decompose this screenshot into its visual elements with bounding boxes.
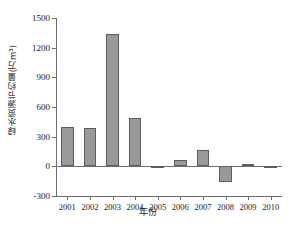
bar bbox=[151, 166, 164, 168]
x-tick bbox=[135, 196, 136, 200]
y-axis-title-text: 绿水资源节约量(万m³) bbox=[9, 45, 18, 135]
x-tick bbox=[67, 196, 68, 200]
x-tick bbox=[203, 196, 204, 200]
x-tick bbox=[113, 196, 114, 200]
bar bbox=[264, 166, 277, 168]
y-tick bbox=[52, 48, 56, 49]
x-tick bbox=[180, 196, 181, 200]
y-tick-label: 600 bbox=[37, 102, 51, 112]
x-tick bbox=[90, 196, 91, 200]
x-tick bbox=[226, 196, 227, 200]
bar bbox=[197, 150, 210, 167]
bar-chart: 绿水资源节约量(万m³) -300030060090012001500 2001… bbox=[0, 0, 295, 228]
y-tick-label: 0 bbox=[46, 161, 51, 171]
y-tick bbox=[52, 196, 56, 197]
x-tick bbox=[248, 196, 249, 200]
bar bbox=[219, 166, 232, 181]
y-tick-label: 1500 bbox=[32, 13, 50, 23]
y-tick-label: 900 bbox=[37, 72, 51, 82]
y-tick bbox=[52, 107, 56, 108]
y-tick-label: 300 bbox=[37, 132, 51, 142]
y-tick bbox=[52, 137, 56, 138]
y-axis-title: 绿水资源节约量(万m³) bbox=[4, 0, 22, 180]
x-axis-title: 年份 bbox=[0, 205, 295, 218]
y-tick-label: -300 bbox=[34, 191, 51, 201]
bar bbox=[106, 34, 119, 167]
y-tick-label: 1200 bbox=[32, 43, 50, 53]
y-tick bbox=[52, 18, 56, 19]
zero-baseline bbox=[56, 166, 282, 167]
bar bbox=[242, 164, 255, 166]
bar bbox=[129, 118, 142, 166]
x-tick bbox=[271, 196, 272, 200]
plot-area: -300030060090012001500 20012002200320042… bbox=[56, 18, 282, 196]
x-tick bbox=[158, 196, 159, 200]
y-axis-line bbox=[56, 18, 57, 196]
bar bbox=[61, 127, 74, 167]
bar bbox=[174, 160, 187, 166]
y-tick bbox=[52, 77, 56, 78]
y-tick bbox=[52, 166, 56, 167]
bar bbox=[84, 128, 97, 166]
